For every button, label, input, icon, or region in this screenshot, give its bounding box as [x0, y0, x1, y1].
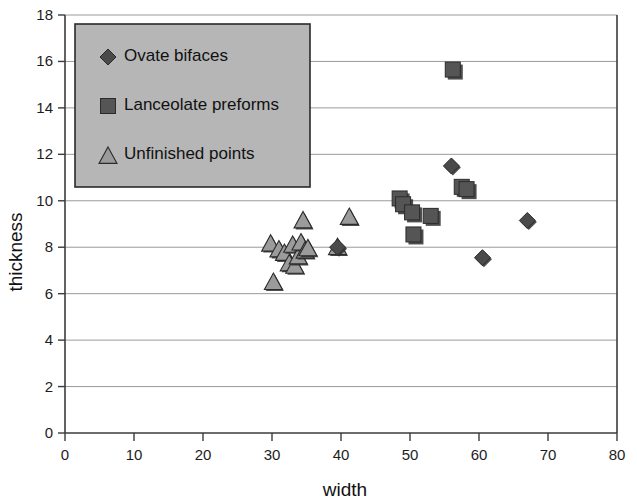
data-point: [443, 158, 461, 176]
y-tick-label-8: 8: [45, 238, 53, 255]
y-tick-label-0: 0: [45, 424, 53, 441]
legend-label: Ovate bifaces: [124, 46, 228, 65]
data-point: [294, 212, 314, 230]
data-point: [340, 208, 360, 226]
x-tick-label-40: 40: [333, 446, 350, 463]
legend-label: Unfinished points: [124, 144, 254, 163]
data-point: [406, 227, 424, 245]
x-tick-label-0: 0: [61, 446, 69, 463]
data-point: [405, 205, 423, 223]
data-point: [474, 250, 492, 267]
y-tick-label-14: 14: [36, 99, 53, 116]
legend-item-square: Lanceolate preforms: [101, 95, 279, 114]
x-tick-label-70: 70: [540, 446, 557, 463]
x-tick-label-50: 50: [402, 446, 419, 463]
y-tick-label-16: 16: [36, 52, 53, 69]
legend-square-icon: [101, 99, 116, 114]
x-axis-title: width: [322, 479, 367, 500]
data-point: [264, 273, 284, 291]
legend-label: Lanceolate preforms: [124, 95, 279, 114]
x-tick-label-80: 80: [609, 446, 626, 463]
y-tick-label-12: 12: [36, 145, 53, 162]
y-tick-labels-group: 024681012141618: [36, 6, 53, 441]
y-tick-label-18: 18: [36, 6, 53, 23]
y-tick-label-6: 6: [45, 285, 53, 302]
data-point: [459, 182, 477, 200]
y-tick-label-2: 2: [45, 378, 53, 395]
x-tick-label-30: 30: [264, 446, 281, 463]
y-axis-title: thickness: [5, 212, 26, 291]
y-tick-label-10: 10: [36, 192, 53, 209]
series-square: [392, 62, 476, 244]
x-tick-labels-group: 01020304050607080: [61, 446, 626, 463]
data-point: [423, 208, 441, 226]
data-point: [519, 213, 537, 231]
plot-canvas: 024681012141618 01020304050607080 Ovate …: [0, 0, 637, 503]
y-tick-label-4: 4: [45, 331, 53, 348]
x-tick-label-10: 10: [126, 446, 143, 463]
data-point: [445, 62, 463, 79]
x-tick-label-60: 60: [471, 446, 488, 463]
x-tick-label-20: 20: [195, 446, 212, 463]
scatter-chart: 024681012141618 01020304050607080 Ovate …: [0, 0, 637, 503]
legend-group: Ovate bifacesLanceolate preformsUnfinish…: [75, 24, 310, 187]
